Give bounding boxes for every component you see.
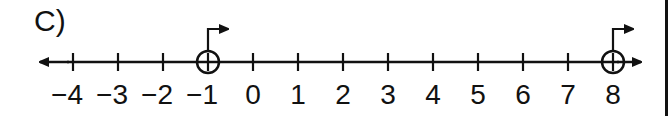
tick-label: −1	[186, 79, 218, 110]
tick-label: 6	[515, 79, 531, 110]
open-circle-point	[197, 29, 228, 73]
tick-label: 4	[425, 79, 441, 110]
tick-label: 8	[605, 79, 621, 110]
tick-label: 0	[245, 79, 261, 110]
open-circle-point	[602, 29, 633, 73]
direction-arrow-icon	[613, 29, 633, 51]
tick-label: −3	[96, 79, 128, 110]
tick-label: 2	[335, 79, 351, 110]
tick-label: 5	[470, 79, 486, 110]
number-line-diagram: −4−3−2−1012345678	[0, 0, 672, 116]
tick-label: 7	[560, 79, 576, 110]
direction-arrow-icon	[208, 29, 228, 51]
tick-label: 3	[380, 79, 396, 110]
tick-label: 1	[290, 79, 306, 110]
right-border	[665, 0, 668, 116]
number-line-tick-labels: −4−3−2−1012345678	[51, 79, 621, 110]
tick-label: −4	[51, 79, 83, 110]
tick-label: −2	[141, 79, 173, 110]
